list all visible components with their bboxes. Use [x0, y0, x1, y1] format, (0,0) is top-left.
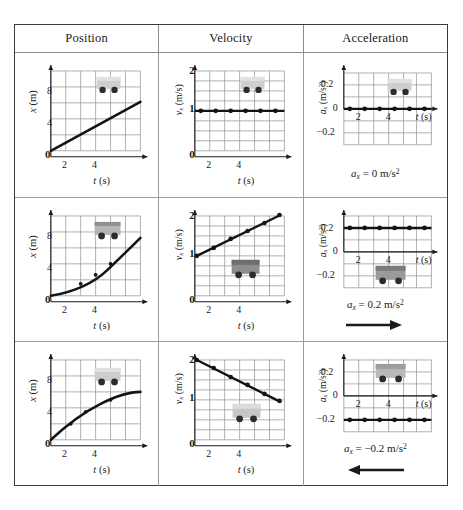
x-tick-2: 2	[356, 398, 361, 409]
y-tick-1: 1	[189, 248, 194, 259]
y-tick-4: 4	[47, 262, 52, 273]
y-tick-1: 1	[189, 103, 194, 114]
y-axis-label-position: x (m)	[27, 235, 38, 257]
column-header-acceleration-label: Acceleration	[342, 31, 408, 46]
origin-label: 0	[45, 293, 51, 305]
y-axis-label-velocity: vx (m/s)	[173, 374, 184, 405]
y-axis-label-position: x (m)	[27, 380, 38, 402]
x-tick-2: 2	[356, 111, 361, 122]
x-tick-4: 4	[92, 304, 97, 315]
y-tick-pos02: 0.2	[321, 78, 334, 89]
x-tick-2: 2	[62, 448, 67, 459]
y-tick-2: 2	[189, 354, 194, 365]
y-tick-neg02: −0.2	[317, 413, 335, 424]
x-tick-4: 4	[386, 111, 391, 122]
x-tick-2: 2	[206, 304, 211, 315]
truck-icon	[95, 368, 121, 385]
cell-acceleration-row3: ax (m/s2) 0.2 0 −0.2 2 4 t (s) ax = −0.2…	[303, 342, 447, 486]
origin-label: 0	[45, 437, 51, 449]
acceleration-caption-row2: ax = 0.2 m/s2	[304, 298, 447, 312]
y-tick-4: 4	[47, 406, 52, 417]
truck-icon	[95, 222, 121, 239]
arrow-left-icon	[304, 464, 447, 476]
x-tick-4: 4	[92, 159, 97, 170]
column-header-acceleration: Acceleration	[303, 25, 447, 52]
cell-position-row2: x (m) 8 4 0 2 4 t (s)	[15, 198, 158, 342]
y-tick-pos02: 0.2	[321, 222, 334, 233]
x-axis-label-time: t (s)	[416, 111, 432, 122]
x-tick-4: 4	[92, 448, 97, 459]
truck-icon	[232, 260, 260, 278]
column-header-velocity-label: Velocity	[209, 31, 252, 46]
y-tick-8: 8	[47, 230, 52, 241]
cell-acceleration-row2: ax (m/s2) 0.2 0 −0.2 2 4 t (s) ax = 0.2 …	[303, 198, 447, 342]
y-tick-8: 8	[47, 374, 52, 385]
x-axis-label-time: t (s)	[189, 320, 302, 331]
cell-position-row3: x (m) 8 4 0 2 4 t (s)	[15, 342, 158, 486]
y-axis-label-velocity: vx (m/s)	[173, 229, 184, 260]
truck-icon	[387, 79, 411, 95]
chart-grid: x (m) 8 4 0 2 4 t (s)	[15, 53, 447, 486]
x-tick-2: 2	[356, 254, 361, 265]
x-tick-4: 4	[386, 254, 391, 265]
x-tick-2: 2	[206, 448, 211, 459]
cell-velocity-row3: vx (m/s) 2 1 0 2 4 t (s)	[158, 342, 302, 486]
cell-velocity-row1: vx (m/s) 2 1 0 2 4 t (s)	[158, 53, 302, 197]
y-tick-zero: 0	[333, 389, 338, 400]
x-axis-label-time: t (s)	[416, 398, 432, 409]
truck-icon	[233, 404, 261, 422]
table-row: x (m) 8 4 0 2 4 t (s)	[15, 342, 447, 486]
table-row: x (m) 8 4 0 2 4 t (s)	[15, 198, 447, 343]
cell-position-row1: x (m) 8 4 0 2 4 t (s)	[15, 53, 158, 197]
x-axis-label-time: t (s)	[189, 464, 302, 475]
y-axis-label-velocity: vx (m/s)	[173, 84, 184, 115]
truck-icon	[375, 364, 405, 382]
arrow-right-icon	[304, 319, 447, 331]
truck-icon	[375, 266, 405, 284]
column-header-position-label: Position	[65, 31, 108, 46]
x-tick-4: 4	[236, 448, 241, 459]
y-tick-1: 1	[189, 392, 194, 403]
y-tick-neg02: −0.2	[317, 126, 335, 137]
x-tick-2: 2	[62, 159, 67, 170]
y-tick-8: 8	[47, 85, 52, 96]
truck-icon	[97, 77, 121, 93]
x-tick-4: 4	[236, 304, 241, 315]
y-tick-zero: 0	[333, 245, 338, 256]
x-tick-4: 4	[236, 159, 241, 170]
column-header-position: Position	[15, 25, 158, 52]
y-tick-neg02: −0.2	[317, 269, 335, 280]
x-axis-label-time: t (s)	[416, 254, 432, 265]
origin-label: 0	[45, 148, 51, 160]
y-tick-2: 2	[189, 210, 194, 221]
x-tick-2: 2	[62, 304, 67, 315]
x-tick-2: 2	[206, 159, 211, 170]
header-row: Position Velocity Acceleration	[15, 25, 447, 53]
y-tick-2: 2	[189, 65, 194, 76]
column-header-velocity: Velocity	[158, 25, 302, 52]
cell-acceleration-row1: ax (m/s2) 0.2 0 −0.2 2 4 t (s) ax = 0 m/…	[303, 53, 447, 197]
acceleration-caption-row3: ax = −0.2 m/s2	[304, 442, 447, 456]
origin-label: 0	[189, 437, 195, 449]
acceleration-caption-row1: ax = 0 m/s2	[304, 167, 447, 181]
y-tick-4: 4	[47, 117, 52, 128]
x-axis-label-time: t (s)	[45, 320, 158, 331]
x-axis-label-time: t (s)	[45, 175, 158, 186]
table-row: x (m) 8 4 0 2 4 t (s)	[15, 53, 447, 198]
cell-velocity-row2: vx (m/s) 2 1 0 2 4 t (s)	[158, 198, 302, 342]
y-tick-zero: 0	[333, 102, 338, 113]
x-axis-label-time: t (s)	[45, 464, 158, 475]
physics-kinematics-figure: Position Velocity Acceleration	[14, 24, 448, 486]
y-axis-label-position: x (m)	[27, 90, 38, 112]
x-tick-4: 4	[386, 398, 391, 409]
y-tick-pos02: 0.2	[321, 366, 334, 377]
origin-label: 0	[189, 293, 195, 305]
x-axis-label-time: t (s)	[189, 175, 302, 186]
origin-label: 0	[189, 148, 195, 160]
